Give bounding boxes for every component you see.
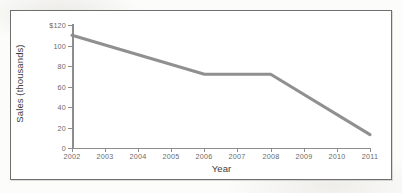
chart-page: $120100806040200 20022003200420052006200… [0,0,402,193]
y-axis-title: Sales (thousands) [14,29,25,139]
x-axis-title: Year [72,163,371,174]
sales-line-path [72,35,370,134]
line-chart: $120100806040200 20022003200420052006200… [0,0,402,193]
